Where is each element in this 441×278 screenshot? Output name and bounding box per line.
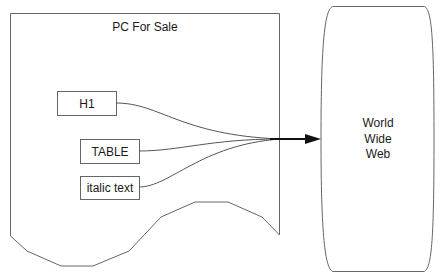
www-label-line-1: World (362, 116, 393, 130)
element-label-h1: H1 (79, 97, 95, 111)
www-label-line-2: Wide (364, 132, 392, 146)
element-label-italic-text: italic text (87, 181, 134, 195)
connector-table (139, 139, 280, 151)
arrowhead-icon (305, 134, 321, 144)
www-label-line-3: Web (366, 147, 391, 161)
element-box-italic-text[interactable]: italic text (81, 177, 140, 200)
element-label-table: TABLE (91, 145, 128, 159)
element-box-table[interactable]: TABLE (81, 140, 140, 164)
element-box-h1[interactable]: H1 (58, 92, 117, 116)
diagram-canvas: PC For Sale H1 TABLE italic text World W… (0, 0, 441, 278)
connector-italic-text (139, 139, 280, 187)
connector-h1 (116, 103, 280, 139)
document-shape (11, 14, 280, 267)
document-title: PC For Sale (112, 20, 178, 34)
